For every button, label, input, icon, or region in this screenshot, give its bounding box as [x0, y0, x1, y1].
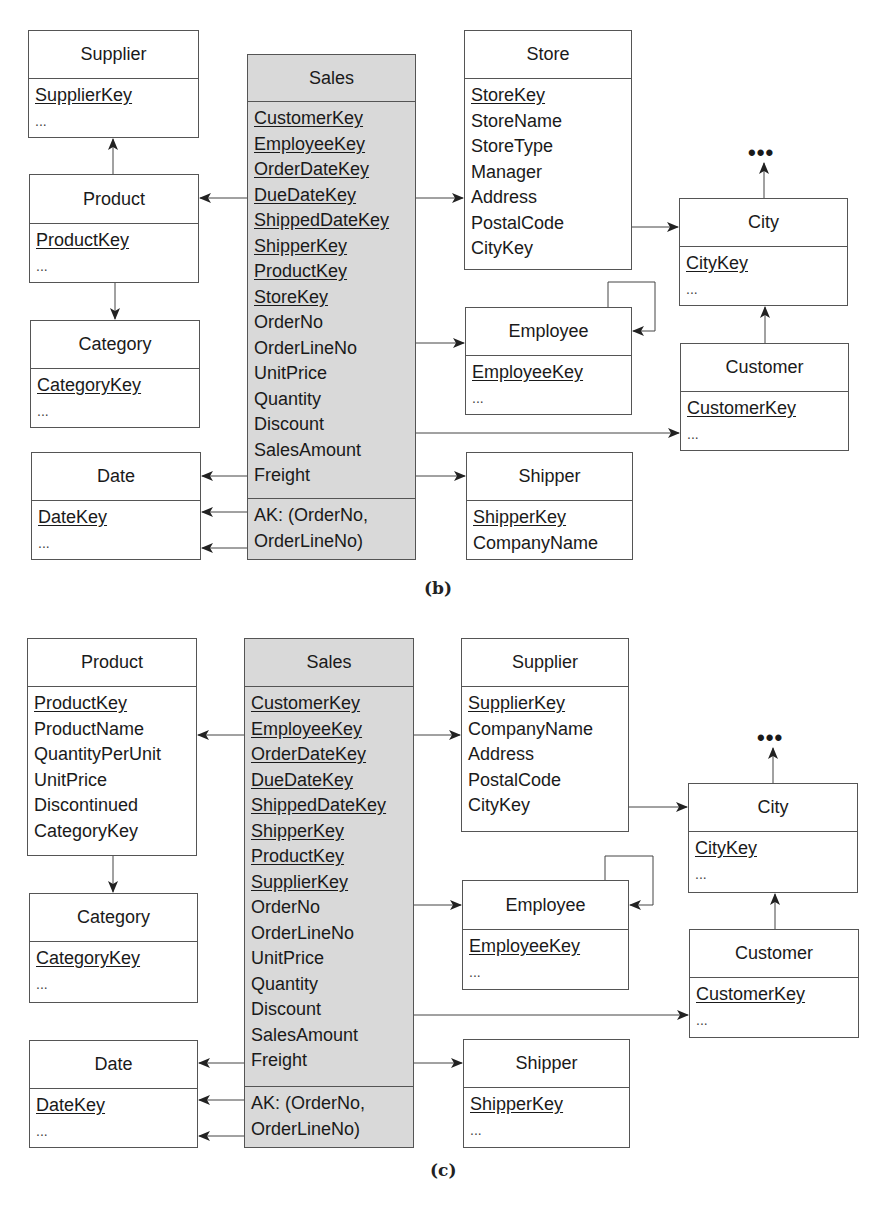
attribute: Freight [254, 463, 409, 489]
table-category-b: CategoryCategoryKey... [30, 320, 200, 428]
key-attribute: ShipperKey [473, 505, 626, 531]
attribute: OrderLineNo [254, 336, 409, 362]
key-attribute: ShippedDateKey [251, 793, 407, 819]
attribute: CompanyName [468, 717, 622, 743]
table-name: Customer [690, 930, 858, 978]
attribute-list: ProductKeyProductNameQuantityPerUnitUnit… [28, 687, 196, 844]
attribute: Discount [251, 997, 407, 1023]
key-attribute: SupplierKey [468, 691, 622, 717]
key-attribute: CategoryKey [37, 373, 193, 399]
table-name: Employee [466, 308, 631, 356]
table-name: Product [28, 639, 196, 687]
attribute: ... [470, 1118, 623, 1143]
key-attribute: OrderDateKey [254, 157, 409, 183]
key-attribute: EmployeeKey [251, 717, 407, 743]
attribute: OrderNo [251, 895, 407, 921]
attribute: ... [695, 862, 851, 887]
attribute: Discontinued [34, 793, 190, 819]
attribute: UnitPrice [34, 768, 190, 794]
alternate-key-line: AK: (OrderNo, [251, 1091, 407, 1117]
attribute-list: CustomerKey... [690, 978, 858, 1033]
attribute: ... [469, 960, 622, 985]
attribute-list: ProductKey... [30, 224, 198, 279]
attribute-list: EmployeeKey... [463, 930, 628, 985]
key-attribute: ShipperKey [254, 234, 409, 260]
attribute-list: CategoryKey... [30, 942, 197, 997]
attribute: ... [37, 399, 193, 424]
attribute-list: DateKey... [30, 1089, 197, 1144]
table-employee-c: EmployeeEmployeeKey... [462, 880, 629, 990]
table-employee-b: EmployeeEmployeeKey... [465, 307, 632, 415]
key-attribute: CityKey [695, 836, 851, 862]
figure-caption-b: (b) [424, 578, 452, 598]
attribute-list: ShipperKey... [464, 1088, 629, 1143]
attribute-list: CategoryKey... [31, 369, 199, 424]
attribute: ProductName [34, 717, 190, 743]
attribute-list: EmployeeKey... [466, 356, 631, 411]
table-date-b: DateDateKey... [31, 452, 201, 560]
key-attribute: ProductKey [251, 844, 407, 870]
attribute: UnitPrice [251, 946, 407, 972]
key-attribute: ShippedDateKey [254, 208, 409, 234]
table-product-c: ProductProductKeyProductNameQuantityPerU… [27, 638, 197, 856]
attribute: Manager [471, 160, 625, 186]
table-category-c: CategoryCategoryKey... [29, 893, 198, 1003]
attribute-list: ShipperKeyCompanyName [467, 501, 632, 556]
attribute: QuantityPerUnit [34, 742, 190, 768]
key-attribute: StoreKey [254, 285, 409, 311]
attribute: Quantity [251, 972, 407, 998]
key-attribute: ProductKey [254, 259, 409, 285]
attribute: ... [687, 422, 842, 447]
table-supplier-c: SupplierSupplierKeyCompanyNameAddressPos… [461, 638, 629, 832]
figure-caption-c: (c) [430, 1160, 456, 1180]
attribute: PostalCode [468, 768, 622, 794]
attribute: CategoryKey [34, 819, 190, 845]
key-attribute: EmployeeKey [254, 132, 409, 158]
attribute-list: StoreKeyStoreNameStoreTypeManagerAddress… [465, 79, 631, 262]
attribute-list: CityKey... [689, 832, 857, 887]
attribute-list: CustomerKey... [681, 392, 848, 447]
attribute: ... [472, 386, 625, 411]
attribute: ... [696, 1008, 852, 1033]
alternate-key-line: OrderLineNo) [251, 1117, 407, 1143]
table-shipper-c: ShipperShipperKey... [463, 1039, 630, 1148]
key-attribute: CustomerKey [696, 982, 852, 1008]
table-name: Store [465, 31, 631, 79]
table-name: Category [31, 321, 199, 369]
attribute: ... [35, 109, 192, 134]
table-name: Sales [248, 55, 415, 102]
table-name: Sales [245, 639, 413, 687]
attribute-list: SupplierKeyCompanyNameAddressPostalCodeC… [462, 687, 628, 819]
key-attribute: DueDateKey [254, 183, 409, 209]
table-name: City [689, 784, 857, 832]
table-name: Supplier [29, 31, 198, 79]
table-name: Date [32, 453, 200, 501]
alternate-key-line: OrderLineNo) [254, 529, 409, 555]
attribute: Address [468, 742, 622, 768]
attribute: CompanyName [473, 531, 626, 557]
attribute: SalesAmount [254, 438, 409, 464]
attribute: ... [36, 1119, 191, 1144]
key-attribute: DateKey [38, 505, 194, 531]
attribute: StoreType [471, 134, 625, 160]
key-attribute: SupplierKey [251, 870, 407, 896]
alternate-key-section: AK: (OrderNo,OrderLineNo) [245, 1086, 413, 1147]
attribute-list: DateKey... [32, 501, 200, 556]
table-name: Shipper [467, 453, 632, 501]
table-sales-c: SalesCustomerKeyEmployeeKeyOrderDateKeyD… [244, 638, 414, 1148]
key-attribute: CategoryKey [36, 946, 191, 972]
key-attribute: DueDateKey [251, 768, 407, 794]
attribute: ... [36, 972, 191, 997]
table-name: Category [30, 894, 197, 942]
attribute: Freight [251, 1048, 407, 1074]
alternate-key-line: AK: (OrderNo, [254, 503, 409, 529]
attribute: Quantity [254, 387, 409, 413]
table-customer-b: CustomerCustomerKey... [680, 343, 849, 451]
key-attribute: CustomerKey [254, 106, 409, 132]
attribute: CityKey [471, 236, 625, 262]
key-attribute: CustomerKey [687, 396, 842, 422]
key-attribute: SupplierKey [35, 83, 192, 109]
table-name: Shipper [464, 1040, 629, 1088]
key-attribute: EmployeeKey [472, 360, 625, 386]
attribute: ... [38, 531, 194, 556]
